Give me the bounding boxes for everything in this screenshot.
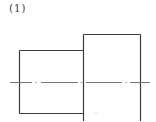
stray-dot bbox=[95, 112, 96, 113]
technical-drawing bbox=[0, 0, 156, 121]
large-cylinder-outline bbox=[84, 35, 141, 122]
